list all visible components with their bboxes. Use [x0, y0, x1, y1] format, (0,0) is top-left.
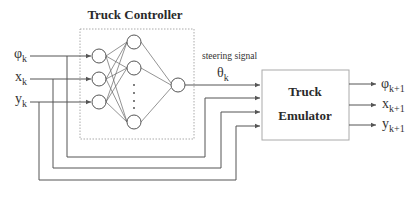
feedback-x-line	[53, 79, 260, 168]
hidden-node	[127, 35, 141, 49]
emulator-box	[262, 70, 349, 140]
output-x-label: xk+1	[382, 96, 405, 114]
hidden-node	[127, 115, 141, 129]
svg-text:θk: θk	[217, 65, 229, 83]
output-phi-label: φk+1	[381, 76, 405, 94]
steering-signal-label: steering signal	[202, 51, 258, 61]
svg-text:xk+1: xk+1	[382, 96, 405, 114]
input-x-label: xk	[15, 69, 27, 87]
emulator-title-line2: Emulator	[278, 108, 332, 123]
input-phi-label: φk	[14, 46, 27, 64]
input-node	[92, 72, 106, 86]
svg-text:φk+1: φk+1	[381, 76, 405, 94]
truck-control-diagram: Truck Controller φk xk yk	[0, 0, 411, 201]
input-y-label: yk	[15, 91, 27, 109]
output-node	[171, 78, 185, 92]
controller-title: Truck Controller	[87, 7, 182, 22]
svg-text:xk: xk	[15, 69, 27, 87]
hidden-ellipsis	[133, 84, 135, 109]
svg-text:yk+1: yk+1	[382, 116, 405, 134]
theta-label: θk	[217, 65, 229, 83]
output-y-label: yk+1	[382, 116, 405, 134]
input-node	[92, 49, 106, 63]
emulator-title-line1: Truck	[288, 84, 322, 99]
hidden-node	[127, 61, 141, 75]
svg-text:yk: yk	[15, 91, 27, 109]
network-edges	[106, 42, 171, 122]
input-node	[92, 95, 106, 109]
svg-text:φk: φk	[14, 46, 27, 64]
